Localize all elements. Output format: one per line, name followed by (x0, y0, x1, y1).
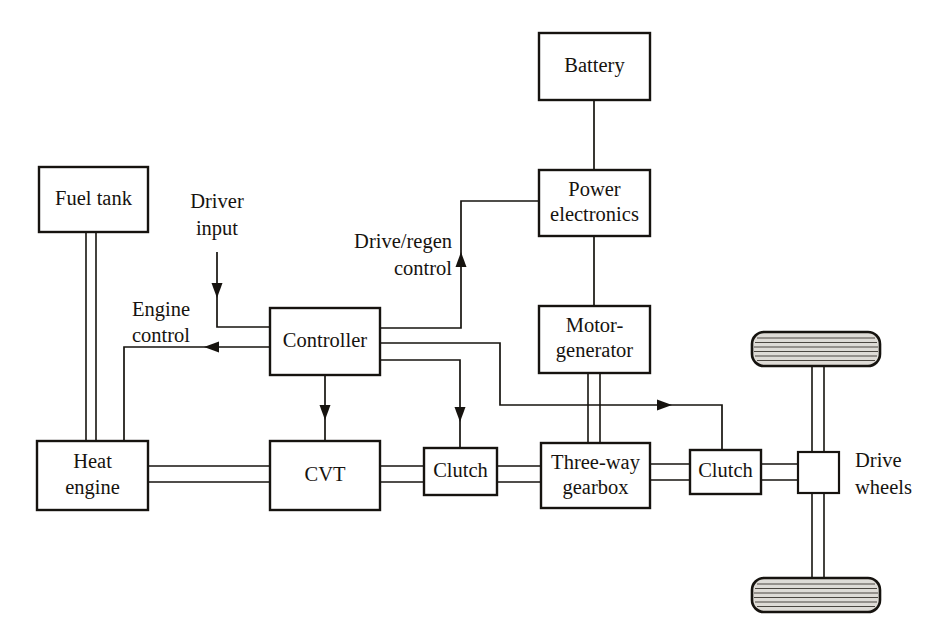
arrowhead-driver-input (212, 283, 223, 298)
block-cvt[interactable]: CVT (270, 441, 380, 510)
block-motor-generator-label-line1: Motor- (566, 314, 624, 336)
connector-driver-input-to-controller (212, 252, 271, 327)
label-drive-regen-control: Drive/regen control (354, 230, 452, 279)
label-drive-wheels-line1: Drive (855, 449, 902, 471)
block-heat-engine-label-line2: engine (65, 476, 120, 499)
block-three-way-gearbox[interactable]: Three-way gearbox (541, 443, 650, 508)
wheel-bottom (752, 578, 880, 612)
block-heat-engine-label-line1: Heat (73, 450, 112, 472)
label-drive-wheels: Drive wheels (855, 449, 912, 498)
block-three-way-gearbox-label-line1: Three-way (551, 451, 641, 474)
block-power-electronics[interactable]: Power electronics (539, 170, 650, 236)
block-controller-label: Controller (283, 329, 367, 351)
block-clutch-right-label: Clutch (698, 459, 753, 481)
connector-gearbox-to-clutch-right (650, 464, 690, 480)
block-three-way-gearbox-label-line2: gearbox (562, 476, 628, 499)
connector-fuel-tank-to-heat-engine (86, 232, 96, 441)
arrowhead-controller-to-cvt (320, 405, 331, 420)
connector-heat-engine-to-cvt (148, 466, 270, 482)
connector-differential-to-wheel-top (812, 366, 824, 452)
block-power-electronics-label-line2: electronics (550, 203, 639, 225)
arrowhead-engine-control (204, 342, 219, 353)
block-heat-engine[interactable]: Heat engine (37, 441, 148, 510)
arrowhead-drive-regen-control (456, 252, 467, 267)
connector-controller-to-clutch-left (380, 360, 466, 448)
connector-differential-to-wheel-bottom (812, 493, 824, 578)
diagram-canvas: Battery Power electronics Motor- generat… (0, 0, 939, 642)
arrowhead-controller-to-clutch-left (455, 407, 466, 422)
block-differential[interactable] (798, 452, 839, 493)
block-battery-label: Battery (564, 54, 625, 77)
connector-cvt-to-clutch-left (380, 466, 424, 482)
block-motor-generator-label-line2: generator (556, 339, 634, 362)
block-fuel-tank-label: Fuel tank (55, 187, 133, 209)
connector-clutch-left-to-gearbox (497, 466, 541, 482)
block-power-electronics-label-line1: Power (568, 178, 621, 200)
block-clutch-left[interactable]: Clutch (424, 448, 497, 495)
wheel-top (752, 332, 880, 366)
label-driver-input-line2: input (196, 217, 238, 240)
block-controller[interactable]: Controller (270, 308, 380, 375)
powertrain-block-diagram: Battery Power electronics Motor- generat… (0, 0, 939, 642)
arrowhead-controller-to-clutch-right (657, 400, 672, 411)
block-motor-generator[interactable]: Motor- generator (539, 306, 650, 373)
connector-controller-to-cvt (320, 375, 331, 441)
block-fuel-tank[interactable]: Fuel tank (39, 167, 148, 232)
label-engine-control-line1: Engine (132, 298, 190, 321)
label-drive-regen-control-line1: Drive/regen (354, 230, 452, 253)
connector-clutch-right-to-differential (761, 464, 798, 480)
block-battery[interactable]: Battery (539, 33, 650, 100)
connector-motor-to-gearbox (588, 373, 600, 443)
label-drive-regen-control-line2: control (394, 257, 452, 279)
label-engine-control-line2: control (132, 324, 190, 346)
label-engine-control: Engine control (132, 298, 190, 346)
block-clutch-left-label: Clutch (433, 459, 488, 481)
label-driver-input: Driver input (190, 190, 244, 240)
label-drive-wheels-line2: wheels (855, 476, 912, 498)
connector-controller-to-heat-engine (124, 342, 270, 442)
block-clutch-right[interactable]: Clutch (690, 450, 761, 494)
block-cvt-label: CVT (305, 463, 346, 485)
label-driver-input-line1: Driver (190, 190, 244, 212)
